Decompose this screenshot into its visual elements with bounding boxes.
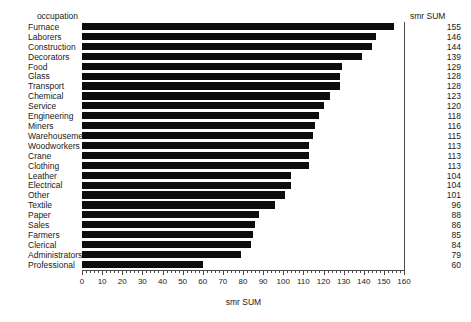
x-axis-minor-tick [319,271,320,273]
row-value-label: 139 [410,52,461,61]
row-category-label: Decorators [28,52,70,61]
x-axis-tick [263,271,264,275]
row-value-label: 113 [410,151,461,160]
row-value-label: 155 [410,23,461,32]
x-axis-minor-tick [150,271,151,273]
x-axis-tick [163,271,164,275]
x-axis-minor-tick [179,271,180,273]
row-category-label: Crane [28,151,51,160]
x-axis-minor-tick [352,271,353,273]
x-axis-minor-tick [154,271,155,273]
x-axis-minor-tick [267,271,268,273]
table-row: Farmers85 [0,230,471,240]
row-category-label: Electrical [28,181,62,190]
x-axis-minor-tick [158,271,159,273]
x-axis-tick [183,271,184,275]
bar-cell [82,42,404,52]
bar-cell [82,181,404,191]
x-axis-minor-tick [219,271,220,273]
x-axis-minor-tick [118,271,119,273]
x-axis-minor-tick [311,271,312,273]
x-axis-minor-tick [98,271,99,273]
bar-cell [82,91,404,101]
x-axis-minor-tick [215,271,216,273]
table-row: Miners116 [0,121,471,131]
table-row: Clothing113 [0,161,471,171]
x-axis-tick [122,271,123,275]
bar-cell [82,101,404,111]
row-category-label: Paper [28,211,51,220]
row-value-label: 129 [410,62,461,71]
row-value-label: 104 [410,171,461,180]
x-axis-minor-tick [255,271,256,273]
row-value-label: 79 [410,251,461,260]
x-axis-minor-tick [211,271,212,273]
x-axis-minor-tick [134,271,135,273]
bar-cell [82,62,404,72]
bar [82,241,251,248]
x-axis-tick [203,271,204,275]
bar [82,122,315,129]
x-axis-tick [102,271,103,275]
bar [82,82,340,89]
row-category-label: Woodworkers [28,142,80,151]
x-axis-minor-tick [247,271,248,273]
bar [82,231,253,238]
plot-right-spine [404,22,405,270]
bar [82,132,313,139]
bar [82,152,309,159]
row-value-label: 60 [410,260,461,269]
x-axis-minor-tick [94,271,95,273]
x-axis-minor-tick [175,271,176,273]
x-axis-tick-label: 20 [118,277,127,286]
x-axis-minor-tick [251,271,252,273]
row-category-label: Chemical [28,92,63,101]
x-axis-tick [223,271,224,275]
row-value-label: 144 [410,43,461,52]
x-axis-minor-tick [90,271,91,273]
x-axis-minor-tick [376,271,377,273]
x-axis-minor-tick [291,271,292,273]
row-category-label: Service [28,102,56,111]
table-row: Woodworkers113 [0,141,471,151]
table-row: Paper88 [0,210,471,220]
row-value-label: 113 [410,161,461,170]
bar [82,261,203,268]
x-axis-minor-tick [340,271,341,273]
x-axis-minor-tick [138,271,139,273]
bar [82,191,285,198]
x-axis-tick-label: 160 [397,277,410,286]
table-row: Administrators79 [0,250,471,260]
table-row: Chemical123 [0,91,471,101]
row-category-label: Clothing [28,161,59,170]
x-axis-tick-label: 150 [377,277,390,286]
x-axis-tick-label: 80 [239,277,248,286]
table-row: Construction144 [0,42,471,52]
x-axis-tick-label: 120 [317,277,330,286]
x-axis-minor-tick [348,271,349,273]
row-category-label: Glass [28,72,50,81]
bar [82,63,342,70]
bar-cell [82,240,404,250]
row-category-label: Miners [28,122,54,131]
row-category-label: Sales [28,221,49,230]
x-axis-tick [142,271,143,275]
x-axis-minor-tick [372,271,373,273]
row-category-label: Textile [28,201,52,210]
table-row: Professional60 [0,260,471,270]
x-axis-tick-label: 10 [98,277,107,286]
bar-cell [82,72,404,82]
row-category-label: Furnace [28,23,59,32]
bar-cell [82,260,404,270]
x-axis-minor-tick [259,271,260,273]
row-value-label: 84 [410,241,461,250]
x-axis-minor-tick [396,271,397,273]
x-axis-tick-label: 70 [218,277,227,286]
x-axis-minor-tick [299,271,300,273]
x-axis-minor-tick [239,271,240,273]
table-row: Textile96 [0,200,471,210]
x-axis-minor-tick [231,271,232,273]
bar-cell [82,32,404,42]
x-axis-minor-tick [199,271,200,273]
x-axis-minor-tick [328,271,329,273]
